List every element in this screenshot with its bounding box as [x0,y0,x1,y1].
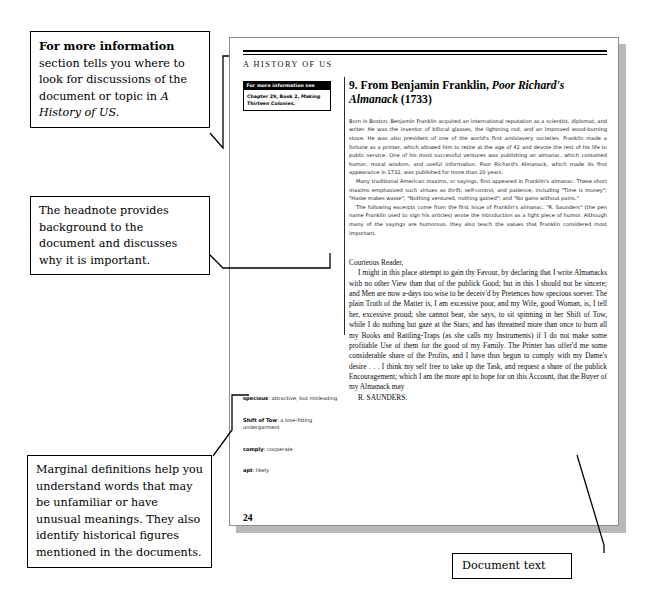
callout-for-more-information: For more information section tells you w… [30,31,210,128]
header-rule-thick [243,50,607,52]
marginal-definition: specious: attractive, but misleading [243,395,340,403]
definition-text: : attractive, but misleading [268,395,337,401]
headnote-paragraph: The following excerpts come from the fir… [349,203,607,237]
for-more-information-box: For more information see Chapter 29, Boo… [243,81,331,111]
marginal-definition: apt: likely [243,467,340,475]
title-suffix: (1733) [398,93,432,106]
callout-headnote-text: The headnote provides background to the … [39,203,201,269]
callout-marginal-definitions: Marginal definitions help you understand… [27,455,212,568]
text-column: 9. From Benjamin Franklin, Poor Richard'… [349,75,607,403]
excerpt-salutation: Courteous Reader, [349,258,607,268]
definition-text: : cooperate [264,446,293,452]
callout-document-text: Document text [452,553,572,579]
for-more-information-header: For more information see [244,82,330,90]
document-title: 9. From Benjamin Franklin, Poor Richard'… [349,79,607,108]
excerpt-signature: R. SAUNDERS. [349,393,607,403]
document-excerpt: Courteous Reader, I might in this place … [349,258,607,403]
page-number: 24 [243,513,253,523]
for-more-information-body: Chapter 29, Book 2, Making Thirteen Colo… [244,90,330,110]
margin-column: For more information see Chapter 29, Boo… [243,75,340,403]
marginal-definition: Shift of Tow: a lose-fitting undergarmen… [243,417,340,432]
definition-term: comply [243,446,264,452]
header-rule-thin [243,54,607,55]
fmi-body-plain: Chapter 29, Book 2, [247,94,301,99]
definition-text: : likely [253,467,270,473]
definition-term: Shift of Tow [243,417,277,423]
column-divider [344,77,345,335]
headnote-paragraph: Many traditional American maxims, or say… [349,177,607,203]
callout-document-text-label: Document text [462,559,546,572]
page-columns: For more information see Chapter 29, Boo… [243,75,607,403]
definition-term: specious [243,395,268,401]
callout-bold-lead: For more information [39,39,174,53]
marginal-definitions: specious: attractive, but misleading Shi… [243,395,340,489]
page-content: A HISTORY OF US For more information see… [243,50,607,517]
running-head: A HISTORY OF US [243,60,607,69]
excerpt-body: I might in this place attempt to gain th… [349,268,607,392]
title-prefix: 9. From Benjamin Franklin, [349,79,492,92]
book-page: A HISTORY OF US For more information see… [229,37,619,526]
callout-for-more-information-text: For more information section tells you w… [39,38,201,122]
callout-marginal-text: Marginal definitions help you understand… [36,462,203,562]
callout-headnote: The headnote provides background to the … [30,196,210,275]
marginal-definition: comply: cooperate [243,446,340,454]
headnote-paragraph: Born in Boston, Benjamin Franklin acquir… [349,117,607,177]
definition-term: apt [243,467,253,473]
figure-canvas: A HISTORY OF US For more information see… [0,0,647,615]
